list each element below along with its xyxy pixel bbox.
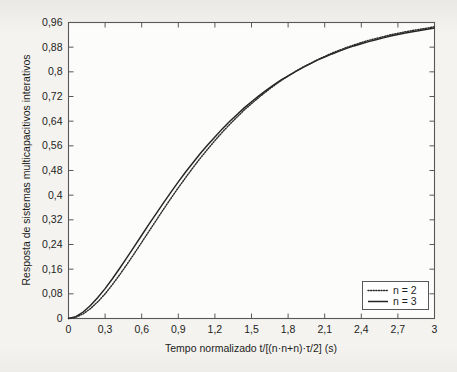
x-tick-label: 2,7 [391,323,406,335]
x-axis-tick-labels: 00,30,60,91,21,51,82,12,42,73 [66,323,438,335]
y-tick-label: 0,32 [42,213,63,225]
y-tick-label: 0,72 [42,90,63,102]
legend: n = 2 n = 3 [363,282,429,310]
y-axis-title: Resposta de sistemas multicapacitivos in… [20,54,32,285]
x-tick-label: 3 [432,323,438,335]
y-tick-label: 0 [57,312,63,324]
x-tick-label: 0,6 [134,323,149,335]
y-tick-label: 0,88 [42,41,63,53]
y-tick-label: 0,56 [42,139,63,151]
y-tick-label: 0,8 [48,65,63,77]
chart-figure: 00,30,60,91,21,51,82,12,42,73 00,080,160… [0,0,457,372]
line-chart-svg: 00,30,60,91,21,51,82,12,42,73 00,080,160… [0,0,457,372]
y-axis-tick-labels: 00,080,160,240,320,40,480,560,640,720,80… [42,16,63,324]
y-tick-label: 0,24 [42,238,63,250]
y-tick-label: 0,96 [42,16,63,28]
x-tick-label: 0 [66,323,72,335]
x-axis-title: Tempo normalizado t/[(n·n+n)·τ/2] (s) [165,342,337,354]
y-tick-label: 0,48 [42,164,63,176]
y-tick-label: 0,08 [42,287,63,299]
y-tick-label: 0,4 [48,189,63,201]
figure-page: 00,30,60,91,21,51,82,12,42,73 00,080,160… [0,0,457,372]
x-tick-label: 1,2 [208,323,223,335]
x-tick-label: 2,1 [317,323,332,335]
x-tick-label: 1,5 [244,323,259,335]
x-tick-label: 0,9 [171,323,186,335]
plot-frame [69,23,435,319]
y-tick-label: 0,16 [42,263,63,275]
legend-label-n3: n = 3 [393,295,417,307]
x-tick-label: 0,3 [98,323,113,335]
y-tick-label: 0,64 [42,115,63,127]
x-tick-label: 1,8 [281,323,296,335]
x-tick-label: 2,4 [354,323,369,335]
